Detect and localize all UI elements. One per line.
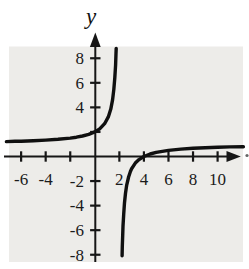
x-tick-label-4: 4 — [140, 170, 149, 189]
function-graph-canvas: -6-4246810864-2-4-6-8y — [0, 0, 249, 269]
x-tick-label-10: 10 — [209, 170, 226, 189]
x-tick-label--6: -6 — [14, 170, 28, 189]
y-tick-label--6: -6 — [70, 221, 84, 240]
y-axis-title: y — [84, 4, 97, 29]
x-tick-label-6: 6 — [164, 170, 173, 189]
x-tick-label--4: -4 — [39, 170, 54, 189]
cropped-x-label-dot — [245, 154, 248, 157]
y-tick-label-4: 4 — [76, 98, 85, 117]
y-tick-label-6: 6 — [76, 74, 85, 93]
y-tick-label--8: -8 — [70, 246, 84, 265]
x-tick-label-2: 2 — [115, 170, 124, 189]
y-tick-label-8: 8 — [76, 49, 85, 68]
y-tick-label--4: -4 — [70, 196, 85, 215]
y-tick-label--2: -2 — [70, 172, 84, 191]
plot-background — [9, 47, 243, 263]
y-axis-arrowhead-icon — [90, 33, 101, 48]
x-tick-label-8: 8 — [189, 170, 198, 189]
graph-figure: -6-4246810864-2-4-6-8y — [0, 0, 249, 269]
